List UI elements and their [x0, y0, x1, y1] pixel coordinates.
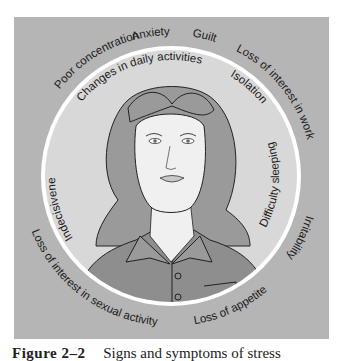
figure-caption: Figure 2–2 Signs and symptoms of stress [12, 345, 281, 361]
figure-caption-text: Signs and symptoms of stress [103, 345, 281, 361]
stress-diagram: Poor concentration Anxiety Guilt Loss of… [0, 0, 343, 361]
figure-number: Figure 2–2 [12, 345, 85, 361]
